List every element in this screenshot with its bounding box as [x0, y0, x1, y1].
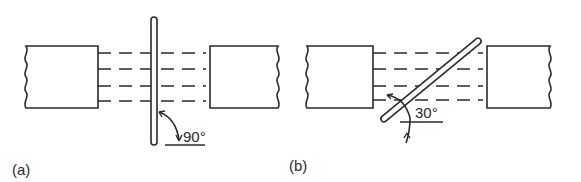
panel-label-a: (a): [12, 162, 30, 177]
right-block-a: [210, 46, 279, 108]
right-block-b: [487, 46, 551, 108]
angle-label-b: 30°: [415, 105, 438, 120]
angle-label-a: 90°: [183, 129, 206, 144]
left-block-b: [306, 46, 373, 108]
panel-b: [306, 37, 551, 143]
diagram-svg: [0, 0, 581, 182]
left-block-a: [25, 46, 98, 108]
plate-a: [151, 17, 157, 145]
diagram-canvas: 90° (a) 30° (b): [0, 0, 581, 182]
panel-a: [25, 17, 279, 145]
dashed-lines-b: [373, 53, 483, 100]
panel-label-b: (b): [289, 158, 307, 173]
